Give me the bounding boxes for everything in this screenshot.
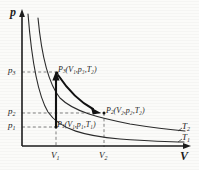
process-arrow-isothermal xyxy=(58,75,101,115)
y-tick-p1: p1 xyxy=(8,121,15,132)
point-label-p3: P3(V₁,p₃,T₂) xyxy=(58,66,97,75)
isotherm-curve-t1 xyxy=(28,14,184,142)
y-tick-p2: p2 xyxy=(8,107,15,118)
y-axis-arrowhead xyxy=(19,9,25,17)
y-axis-label: p xyxy=(10,6,16,18)
point-label-p1: P1(V₁,p₁,T₁) xyxy=(57,121,96,130)
x-tick-v2: V2 xyxy=(99,151,107,162)
isotherm-label-t2: T2 xyxy=(182,122,190,133)
diagram-canvas xyxy=(0,0,199,170)
x-axis-label: V xyxy=(180,150,188,162)
isotherm-label-t1: T1 xyxy=(182,133,190,144)
x-tick-v1: V1 xyxy=(51,151,59,162)
pv-diagram-figure: p V p3 p2 p1 V1 V2 P3(V₁,p₃,T₂) P2(V₂,p₂… xyxy=(0,0,199,170)
point-label-p2: P2(V₂,p₂,T₂) xyxy=(106,107,145,116)
y-tick-p3: p3 xyxy=(8,66,15,77)
